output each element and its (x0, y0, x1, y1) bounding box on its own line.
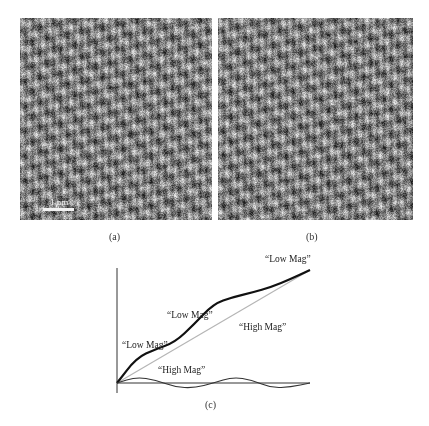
chart-annotation: “Low Mag” (167, 310, 213, 320)
chart-annotation: “Low Mag” (122, 340, 168, 350)
chart-annotation: “High Mag” (239, 322, 286, 332)
panel-label-c: (c) (205, 399, 216, 410)
chart-annotation: “High Mag” (158, 365, 205, 375)
chart-annotation: “Low Mag” (265, 254, 311, 264)
calibration-chart (0, 0, 429, 426)
